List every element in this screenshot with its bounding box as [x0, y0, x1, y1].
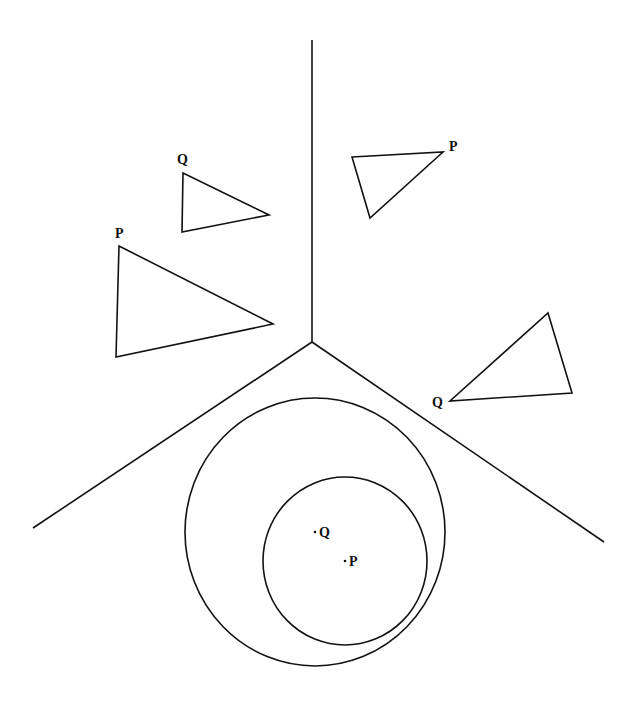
label-q: Q [432, 395, 443, 410]
triangle-upper-right: P [352, 139, 458, 218]
triangle-upper-left-large: P [115, 226, 273, 357]
point-p-dot [344, 560, 347, 563]
divider-lines [33, 40, 604, 542]
divider-right [312, 342, 604, 542]
label-p: P [115, 226, 124, 241]
triangle-upper-left-small: Q [177, 152, 269, 232]
label-p: P [449, 139, 458, 154]
point-q-dot [314, 531, 317, 534]
divider-left [33, 342, 312, 528]
label-q: Q [319, 525, 330, 540]
label-p: P [349, 554, 358, 569]
circles: Q P [185, 398, 445, 666]
diagram-canvas: Q P P Q Q P [0, 0, 637, 713]
label-q: Q [177, 152, 188, 167]
triangle-right: Q [432, 313, 572, 410]
